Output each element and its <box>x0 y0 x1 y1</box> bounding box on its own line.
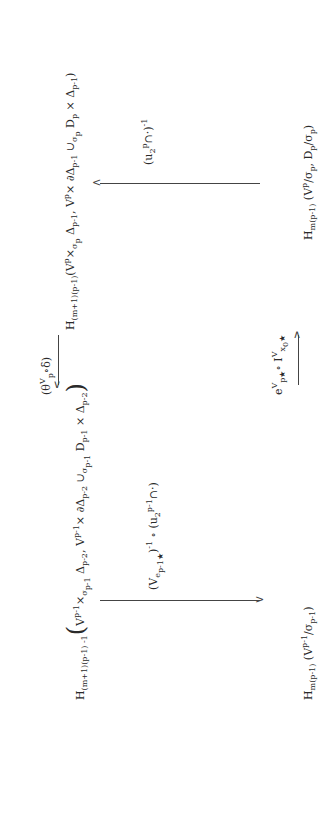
right-arrow-head: < <box>92 176 101 189</box>
right-arrow-label: (u2p∩·)-1 <box>140 119 157 165</box>
bottom-arrow-head: ∧ <box>293 328 301 341</box>
top-right-group: H(m+1)(p-1)(Vp×σp Δp-1, Vp× ∂Δp-1 ∪σp Dp… <box>62 73 81 330</box>
bottom-arrow-label: eVp★∘ IVx0★ <box>270 335 289 395</box>
bottom-right-group: Hm(p-1) (Vp/σp, Dp/σp) <box>300 125 317 240</box>
left-arrow-head: > <box>255 593 264 606</box>
top-left-group: H(m+1)(p-1) -1(Vp-1×σp-1 Δp-2, Vp-1× ∂Δp… <box>62 383 92 700</box>
bottom-arrow <box>298 335 299 385</box>
left-vertical-arrow <box>100 600 260 601</box>
top-arrow-head: ∨ <box>53 378 61 391</box>
bottom-left-group: Hm(p-1) (Vp-1/σp-1) <box>300 607 317 700</box>
left-arrow-label: (Vep-1★)-1 ∘ (u2p-1∩·) <box>145 482 164 590</box>
right-vertical-arrow <box>100 183 260 184</box>
